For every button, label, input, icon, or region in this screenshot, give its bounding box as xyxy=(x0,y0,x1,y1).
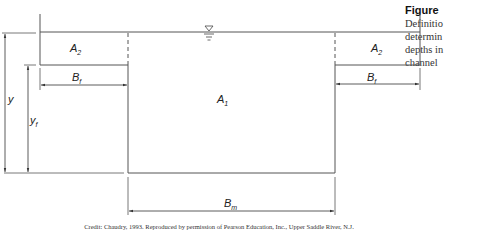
label-a1: A1 xyxy=(216,93,228,107)
label-a2-right: A2 xyxy=(370,42,382,56)
label-a2-left: A2 xyxy=(69,42,81,56)
compound-channel-diagram: A2 A2 A1 Bf Bf Bm y yf xyxy=(0,0,490,246)
credit-line: Credit: Chaudry, 1993. Reproduced by per… xyxy=(0,223,490,230)
water-surface-icon xyxy=(204,26,214,40)
label-bf-left: Bf xyxy=(72,71,82,85)
label-bm: Bm xyxy=(224,197,237,211)
label-bf-right: Bf xyxy=(367,71,377,85)
label-yf: yf xyxy=(29,114,39,128)
channel-cross-section xyxy=(40,14,420,173)
label-y: y xyxy=(7,93,15,105)
